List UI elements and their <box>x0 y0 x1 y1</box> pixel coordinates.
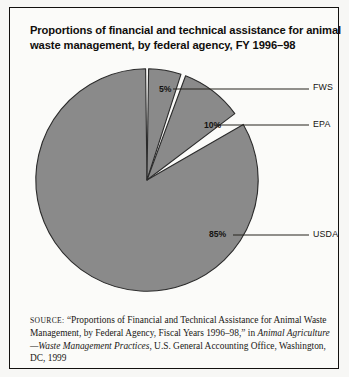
pie-category-label-usda: USDA <box>313 229 338 239</box>
source-note: SOURCE: “Proportions of Financial and Te… <box>30 314 332 365</box>
pie-value-label-epa: 10% <box>204 120 221 130</box>
pie-category-label-epa: EPA <box>313 119 331 129</box>
page-title-line-2: waste management, by federal agency, FY … <box>30 38 330 53</box>
figure-frame: Proportions of financial and technical a… <box>9 7 339 369</box>
pie-category-label-fws: FWS <box>313 82 333 92</box>
pie-chart: 5% 10% 85% FWS EPA USDA <box>21 54 347 304</box>
pie-chart-svg <box>21 54 347 304</box>
figure-container: Proportions of financial and technical a… <box>0 0 349 377</box>
figure-title: Proportions of financial and technical a… <box>30 23 330 52</box>
page-title-line-1: Proportions of financial and technical a… <box>30 23 330 38</box>
pie-value-label-fws: 5% <box>159 84 171 94</box>
source-label: SOURCE: <box>30 316 65 325</box>
pie-value-label-usda: 85% <box>209 229 226 239</box>
